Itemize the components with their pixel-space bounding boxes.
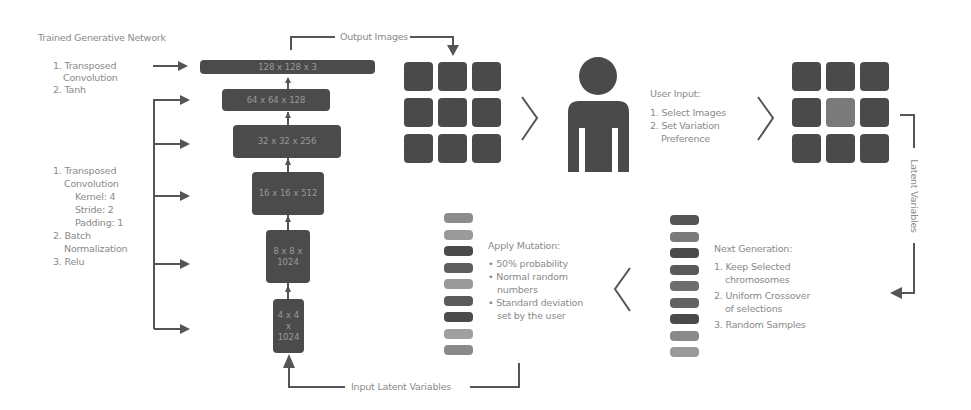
chevron-right-icon: [522, 97, 537, 140]
network-layer: 32 x 32 x 256: [233, 125, 341, 158]
image-tile[interactable]: [404, 98, 433, 127]
mutation-block: Apply Mutation: • 50% probability • Norm…: [488, 240, 583, 322]
image-tile[interactable]: [792, 98, 821, 127]
chromosome: [670, 331, 699, 341]
chromosome: [670, 281, 699, 291]
output-images-label: Output Images: [338, 31, 410, 43]
user-icon: [568, 57, 629, 172]
chevron-right-icon: [758, 97, 773, 140]
next-generation-step: 1. Keep Selected: [714, 260, 810, 273]
image-tile[interactable]: [860, 62, 889, 91]
next-generation-step: 3. Random Samples: [714, 318, 810, 331]
arrow-to-layer-2: [154, 95, 190, 105]
network-layer: 16 x 16 x 512: [252, 172, 324, 215]
chromosome: [670, 232, 699, 242]
next-generation-step: 2. Uniform Crossover: [714, 289, 810, 302]
arrow-to-layer-5: [154, 259, 190, 269]
network-layer: 64 x 64 x 128: [222, 89, 330, 111]
mutation-title: Apply Mutation:: [488, 240, 583, 252]
chromosome: [444, 296, 473, 306]
chromosome: [670, 248, 699, 258]
image-tile[interactable]: [438, 98, 467, 127]
next-generation-step: chromosomes: [714, 273, 810, 286]
chromosome: [444, 213, 473, 223]
image-tile[interactable]: [404, 62, 433, 91]
image-tile[interactable]: [826, 134, 855, 163]
mutation-bullet: • Standard deviation: [488, 296, 583, 309]
next-generation-block: Next Generation: 1. Keep Selected chromo…: [714, 243, 810, 331]
user-input-step: 2. Set Variation: [650, 119, 726, 132]
image-tile[interactable]: [404, 134, 433, 163]
mutation-bullet: • Normal random: [488, 270, 583, 283]
arrow-to-layer-1: [153, 61, 188, 71]
mutation-bullet: numbers: [488, 283, 583, 296]
chromosome: [670, 314, 699, 324]
image-tile[interactable]: [860, 98, 889, 127]
next-gen-chromosomes: [670, 215, 699, 365]
image-tile[interactable]: [438, 62, 467, 91]
mutation-bullet: • 50% probability: [488, 257, 583, 270]
selected-image-tile[interactable]: [826, 98, 855, 127]
image-tile[interactable]: [826, 62, 855, 91]
user-input-title: User Input:: [650, 88, 726, 100]
network-layer: 4 x 4 x 1024: [273, 299, 304, 353]
chromosome: [670, 265, 699, 275]
image-tile[interactable]: [792, 62, 821, 91]
mutation-chromosomes: [444, 213, 473, 363]
chromosome: [444, 246, 473, 256]
arrow-to-layer-6: [154, 324, 190, 334]
chromosome: [444, 345, 473, 355]
chevron-left-icon: [615, 268, 630, 311]
user-input-step: Preference: [650, 132, 726, 145]
network-layer: 128 x 128 x 3: [200, 60, 375, 74]
network-layer: 8 x 8 x 1024: [266, 230, 310, 283]
chromosome: [444, 279, 473, 289]
chromosome: [670, 215, 699, 225]
mutation-bullet: set by the user: [488, 309, 583, 322]
user-input-block: User Input: 1. Select Images 2. Set Vari…: [650, 88, 726, 145]
image-tile[interactable]: [472, 98, 501, 127]
output-image-grid: [404, 62, 506, 164]
image-tile[interactable]: [472, 62, 501, 91]
image-tile[interactable]: [472, 134, 501, 163]
chromosome: [444, 230, 473, 240]
user-input-step: 1. Select Images: [650, 106, 726, 119]
next-generation-title: Next Generation:: [714, 243, 810, 255]
latent-variables-label: Latent Variables: [908, 156, 920, 236]
image-tile[interactable]: [860, 134, 889, 163]
chromosome: [444, 312, 473, 322]
input-latent-label: Input Latent Variables: [349, 381, 453, 393]
image-tile[interactable]: [792, 134, 821, 163]
selected-image-grid: [792, 62, 894, 164]
chromosome: [444, 263, 473, 273]
arrow-to-layer-3: [154, 139, 190, 149]
chromosome: [670, 347, 699, 357]
chromosome: [444, 329, 473, 339]
chromosome: [670, 298, 699, 308]
next-generation-step: of selections: [714, 302, 810, 315]
arrow-to-layer-4: [154, 191, 190, 201]
image-tile[interactable]: [438, 134, 467, 163]
